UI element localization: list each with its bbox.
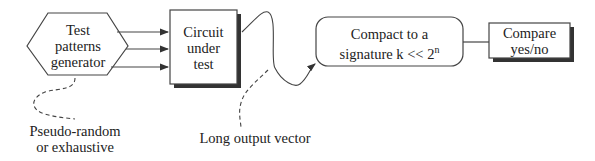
circuit-line1: Circuit [170, 24, 237, 40]
generator-line3: generator [44, 54, 112, 70]
generator-line2: patterns [44, 38, 112, 54]
output-curve [242, 12, 315, 85]
compact-line2-wrap: signature k << 2n [316, 42, 463, 62]
generator-line1: Test [44, 22, 112, 38]
compare-line2: yes/no [489, 41, 570, 57]
output-note: Long output vector [195, 130, 315, 146]
compact-line1: Compact to a [316, 26, 463, 42]
circuit-label: Circuit under test [170, 24, 237, 72]
generator-note-leader [34, 78, 75, 119]
compare-line1: Compare [489, 25, 570, 41]
compact-line2: signature k << 2 [340, 46, 435, 62]
compare-label: Compare yes/no [489, 25, 570, 57]
compact-label: Compact to a signature k << 2n [316, 26, 463, 62]
circuit-line3: test [170, 56, 237, 72]
generator-note-line2: or exhaustive [25, 139, 125, 155]
generator-note: Pseudo-random or exhaustive [25, 123, 125, 155]
output-note-leader [240, 70, 268, 127]
diagram-canvas: Test patterns generator Circuit under te… [0, 0, 595, 161]
circuit-line2: under [170, 40, 237, 56]
generator-label: Test patterns generator [44, 22, 112, 70]
generator-note-line1: Pseudo-random [25, 123, 125, 139]
compact-superscript: n [434, 44, 439, 55]
